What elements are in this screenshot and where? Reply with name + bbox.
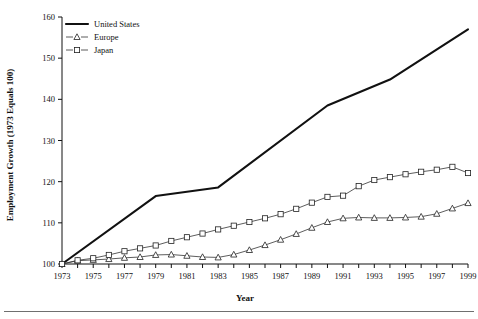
y-tick-label: 100: [42, 259, 55, 269]
data-point-marker: [75, 258, 80, 263]
y-tick-label: 160: [42, 12, 55, 22]
legend-label: Japan: [94, 45, 114, 55]
data-point-marker: [247, 219, 252, 224]
footer-divider: [4, 311, 474, 312]
x-axis: 1973197519771979198119831985198719891991…: [54, 264, 477, 281]
y-tick-label: 110: [43, 218, 55, 228]
data-point-marker: [91, 256, 96, 261]
data-point-marker: [356, 214, 362, 220]
x-tick-label: 1977: [116, 271, 133, 281]
data-point-marker: [59, 261, 64, 266]
data-point-marker: [419, 169, 424, 174]
data-point-marker: [309, 200, 314, 205]
chart-legend: United StatesEuropeJapan: [66, 19, 140, 55]
y-axis-title: Employment Growth (1973 Equals 100): [5, 69, 15, 221]
legend-label: United States: [94, 19, 140, 29]
data-point-marker: [340, 193, 345, 198]
data-point-marker: [278, 237, 284, 243]
legend-entry: Japan: [66, 45, 114, 55]
y-tick-label: 120: [42, 177, 55, 187]
data-point-marker: [184, 235, 189, 240]
data-point-marker: [434, 167, 439, 172]
y-axis: 100110120130140150160: [42, 12, 62, 269]
data-point-marker: [231, 223, 236, 228]
data-point-marker: [169, 238, 174, 243]
data-point-marker: [293, 231, 299, 237]
series-line-europe: [62, 203, 468, 264]
y-tick-label: 130: [42, 136, 55, 146]
series-line-united-states: [62, 29, 468, 264]
x-tick-label: 1991: [335, 271, 352, 281]
x-tick-label: 1993: [366, 271, 383, 281]
data-point-marker: [216, 227, 221, 232]
data-point-marker: [309, 225, 315, 231]
series-united-states: [62, 29, 468, 264]
x-tick-label: 1989: [303, 271, 320, 281]
x-axis-title: Year: [236, 293, 254, 303]
legend-marker-swatch: [74, 47, 79, 52]
x-tick-label: 1975: [85, 271, 102, 281]
legend-marker-swatch: [74, 34, 80, 40]
data-point-marker: [168, 251, 174, 257]
data-point-marker: [137, 246, 142, 251]
y-tick-label: 150: [42, 53, 55, 63]
data-point-marker: [465, 170, 470, 175]
x-tick-label: 1999: [460, 271, 477, 281]
data-point-marker: [450, 164, 455, 169]
x-tick-label: 1987: [272, 271, 289, 281]
data-point-marker: [403, 172, 408, 177]
y-tick-label: 140: [42, 94, 55, 104]
data-point-marker: [356, 184, 361, 189]
series-layer: [59, 29, 471, 266]
data-point-marker: [465, 200, 471, 206]
x-tick-label: 1983: [210, 271, 227, 281]
legend-entry: United States: [66, 19, 140, 29]
x-tick-label: 1995: [397, 271, 414, 281]
legend-label: Europe: [94, 32, 119, 42]
data-point-marker: [278, 212, 283, 217]
x-tick-label: 1985: [241, 271, 258, 281]
data-point-marker: [262, 216, 267, 221]
series-japan: [59, 164, 470, 266]
data-point-marker: [200, 231, 205, 236]
data-point-marker: [294, 206, 299, 211]
data-point-marker: [122, 249, 127, 254]
x-tick-label: 1997: [428, 271, 445, 281]
data-point-marker: [325, 194, 330, 199]
data-point-marker: [153, 243, 158, 248]
data-point-marker: [387, 175, 392, 180]
x-tick-label: 1979: [147, 271, 164, 281]
data-point-marker: [106, 252, 111, 257]
series-europe: [59, 200, 471, 267]
data-point-marker: [372, 177, 377, 182]
x-tick-label: 1973: [54, 271, 71, 281]
chart-figure: 100110120130140150160 197319751977197919…: [0, 0, 478, 319]
employment-growth-line-chart: 100110120130140150160 197319751977197919…: [0, 0, 478, 319]
legend-entry: Europe: [66, 32, 119, 42]
x-tick-label: 1981: [178, 271, 195, 281]
